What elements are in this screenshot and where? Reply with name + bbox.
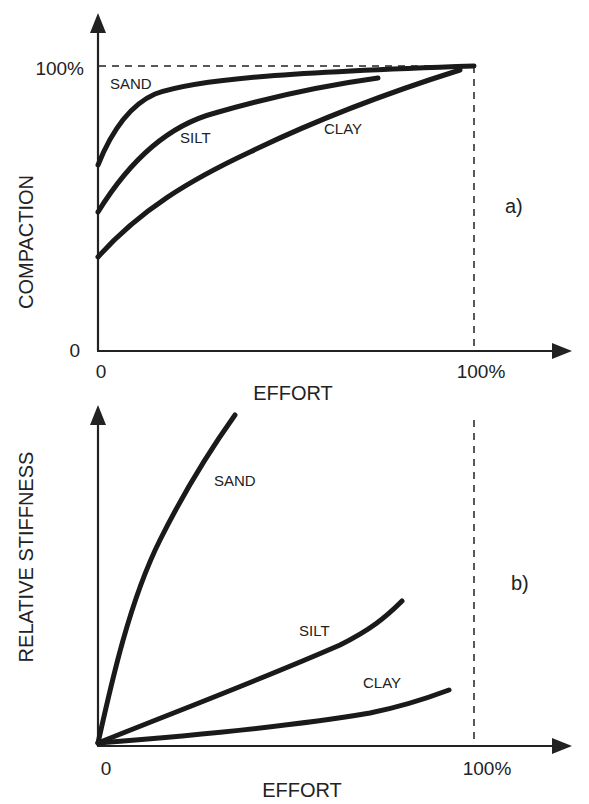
chart-a-curve-silt — [98, 78, 378, 212]
chart-a-x-tick-0: 0 — [96, 361, 107, 382]
chart-b-label-clay: CLAY — [363, 674, 401, 691]
chart-a-curve-sand — [98, 66, 474, 165]
chart-a-label-clay: CLAY — [324, 120, 362, 137]
chart-b-x-axis-title: EFFORT — [262, 779, 342, 801]
chart-b-curve-clay — [98, 690, 449, 743]
chart-b-label-silt: SILT — [299, 622, 330, 639]
chart-b-panel-label: b) — [511, 572, 529, 594]
chart-a-x-axis-arrow-icon — [552, 343, 572, 359]
chart-b-curve-silt — [98, 601, 402, 743]
chart-a-y-tick-0: 0 — [69, 340, 80, 361]
chart-b: 0 100% EFFORT RELATIVE STIFFNESS SAND SI… — [15, 405, 572, 801]
chart-b-label-sand: SAND — [214, 472, 256, 489]
chart-b-curve-sand — [98, 415, 235, 743]
chart-a: 100% 0 0 100% EFFORT COMPACTION SAND SIL… — [15, 13, 572, 404]
chart-a-y-tick-100: 100% — [35, 58, 84, 79]
chart-a-label-sand: SAND — [110, 75, 152, 92]
chart-a-x-tick-100: 100% — [457, 361, 506, 382]
chart-a-panel-label: a) — [505, 195, 523, 217]
chart-b-x-axis-arrow-icon — [552, 738, 572, 754]
chart-a-y-axis-title: COMPACTION — [15, 175, 37, 309]
chart-b-x-tick-100: 100% — [463, 758, 512, 779]
chart-a-x-axis-title: EFFORT — [253, 382, 333, 404]
chart-b-y-axis-arrow-icon — [90, 405, 106, 425]
chart-a-y-axis-arrow-icon — [90, 13, 106, 33]
chart-b-y-axis-title: RELATIVE STIFFNESS — [15, 452, 37, 663]
chart-a-label-silt: SILT — [180, 129, 211, 146]
figure: 100% 0 0 100% EFFORT COMPACTION SAND SIL… — [0, 0, 589, 804]
chart-b-x-tick-0: 0 — [101, 758, 112, 779]
